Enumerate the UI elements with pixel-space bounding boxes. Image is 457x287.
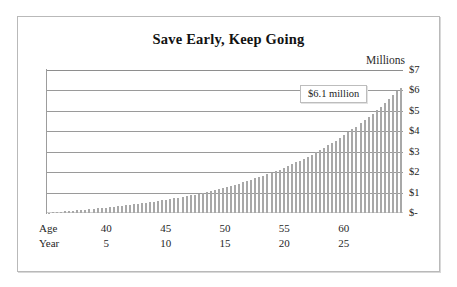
- bar: [400, 88, 402, 213]
- x-tick-label-age: 40: [91, 222, 121, 234]
- bar: [392, 95, 394, 213]
- x-axis-row-label-age: Age: [39, 222, 57, 234]
- bar: [254, 178, 256, 213]
- bar: [315, 152, 317, 213]
- bar: [364, 120, 366, 213]
- bar: [230, 186, 232, 213]
- bar: [396, 91, 398, 213]
- y-tick-label: $7: [409, 64, 420, 75]
- bar: [319, 150, 321, 213]
- y-tick-label: $3: [409, 146, 420, 157]
- x-axis-labels: Age 4045505560 Year 510152025: [17, 222, 440, 256]
- y-axis-tick-labels: $7$6$5$4$3$2$1$-: [409, 60, 455, 225]
- bar: [93, 209, 95, 213]
- bar: [279, 170, 281, 213]
- bar: [88, 209, 90, 213]
- x-tick-label-year: 10: [151, 237, 181, 249]
- bar: [222, 188, 224, 213]
- y-tick-label: $5: [409, 105, 420, 116]
- bar: [133, 204, 135, 213]
- bar: [351, 129, 353, 213]
- bar: [113, 207, 115, 213]
- bar: [161, 200, 163, 213]
- bar: [376, 110, 378, 213]
- bar: [169, 199, 171, 213]
- bar: [84, 210, 86, 213]
- bar: [210, 191, 212, 213]
- x-tick-label-year: 20: [269, 237, 299, 249]
- bar: [157, 201, 159, 213]
- bar: [194, 195, 196, 213]
- bar: [97, 208, 99, 213]
- bar: [372, 114, 374, 213]
- x-tick-label-age: 55: [269, 222, 299, 234]
- bar: [121, 206, 123, 213]
- chart-figure: Save Early, Keep Going Millions $7$6$5$4…: [0, 0, 457, 287]
- bar: [299, 161, 301, 213]
- x-axis-row-year: Year 510152025: [17, 237, 440, 252]
- bar: [141, 203, 143, 213]
- bar: [60, 212, 62, 213]
- y-tick-label: $4: [409, 125, 420, 136]
- bar: [271, 173, 273, 213]
- bar: [291, 164, 293, 213]
- callout-annotation: $6.1 million: [300, 85, 367, 103]
- bar: [226, 187, 228, 213]
- bar: [287, 166, 289, 213]
- bar: [218, 189, 220, 213]
- bar: [202, 193, 204, 213]
- bar: [76, 210, 78, 213]
- bar: [105, 208, 107, 213]
- bar: [182, 197, 184, 213]
- y-tick-label: $1: [409, 187, 420, 198]
- bar: [323, 148, 325, 213]
- chart-title: Save Early, Keep Going: [17, 31, 440, 48]
- x-axis-row-age: Age 4045505560: [17, 222, 440, 237]
- bar: [347, 132, 349, 213]
- bar: [355, 127, 357, 214]
- bar: [68, 211, 70, 213]
- bar: [177, 198, 179, 213]
- bar: [275, 171, 277, 213]
- bar: [331, 143, 333, 213]
- bar: [343, 135, 345, 213]
- bar: [368, 117, 370, 213]
- bar: [109, 207, 111, 213]
- bar: [198, 194, 200, 213]
- bar: [307, 157, 309, 213]
- bar: [48, 213, 50, 214]
- x-tick-label-age: 60: [329, 222, 359, 234]
- bar: [117, 206, 119, 213]
- bar: [266, 174, 268, 213]
- bar: [52, 212, 54, 213]
- bar: [360, 123, 362, 213]
- bar: [153, 202, 155, 213]
- bar: [258, 177, 260, 213]
- bar: [295, 162, 297, 213]
- x-tick-label-year: 25: [329, 237, 359, 249]
- y-tick-label: $6: [409, 84, 420, 95]
- bar: [190, 195, 192, 213]
- bar: [384, 103, 386, 213]
- bar: [149, 202, 151, 213]
- bar: [206, 192, 208, 213]
- bar: [246, 181, 248, 213]
- bar: [303, 159, 305, 213]
- x-tick-label-age: 50: [210, 222, 240, 234]
- y-tick-label: $2: [409, 166, 420, 177]
- bar: [64, 211, 66, 213]
- bar: [125, 205, 127, 213]
- bar: [145, 203, 147, 213]
- bar: [388, 99, 390, 213]
- bar: [137, 204, 139, 213]
- bar: [311, 155, 313, 213]
- bar: [380, 107, 382, 213]
- bar: [283, 168, 285, 213]
- bar: [56, 212, 58, 213]
- bar: [339, 138, 341, 213]
- bar: [129, 205, 131, 213]
- x-tick-label-year: 5: [91, 237, 121, 249]
- bar: [262, 176, 264, 213]
- bar: [80, 210, 82, 213]
- x-tick-label-year: 15: [210, 237, 240, 249]
